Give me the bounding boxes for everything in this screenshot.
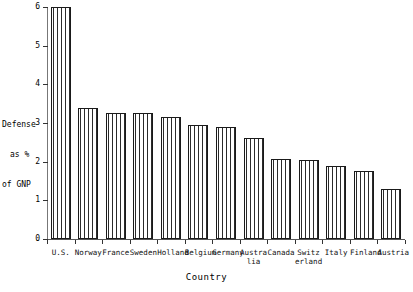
x-axis-label-line-1: Canada bbox=[267, 248, 295, 257]
y-axis-title-line-2: as % bbox=[2, 150, 48, 160]
x-axis-label-line-1: Sweden bbox=[130, 248, 158, 257]
y-tick: 2 bbox=[43, 162, 48, 163]
bar-chart: Defense as % of GNP 0123456 U.S.NorwayFr… bbox=[0, 0, 413, 292]
bar bbox=[381, 189, 401, 239]
x-axis-label: Australia bbox=[240, 248, 268, 266]
y-tick-label: 1 bbox=[35, 195, 40, 204]
y-tick: 4 bbox=[43, 84, 48, 85]
bar bbox=[133, 113, 153, 239]
x-axis-label: France bbox=[102, 248, 130, 257]
x-axis-label-line-1: Italy bbox=[322, 248, 350, 257]
x-axis-label-line-1: Finland bbox=[350, 248, 378, 257]
x-axis-label: Germany bbox=[212, 248, 240, 257]
bar bbox=[354, 171, 374, 239]
y-tick: 5 bbox=[43, 46, 48, 47]
y-tick-label: 0 bbox=[35, 234, 40, 243]
x-axis-label-line-1: Austria bbox=[377, 248, 405, 257]
x-axis-label-line-1: Switz bbox=[295, 248, 323, 257]
bar bbox=[216, 127, 236, 239]
x-axis-label: Holland bbox=[157, 248, 185, 257]
x-axis-label: Switzerland bbox=[295, 248, 323, 266]
bar bbox=[299, 160, 319, 239]
x-tick bbox=[102, 240, 103, 244]
x-axis-label-line-1: Austra bbox=[240, 248, 268, 257]
x-tick bbox=[240, 240, 241, 244]
x-tick bbox=[267, 240, 268, 244]
x-tick bbox=[130, 240, 131, 244]
x-tick bbox=[405, 240, 406, 244]
x-tick bbox=[295, 240, 296, 244]
y-tick: 1 bbox=[43, 200, 48, 201]
bar bbox=[106, 113, 126, 239]
x-tick bbox=[212, 240, 213, 244]
x-tick bbox=[47, 240, 48, 244]
x-tick bbox=[185, 240, 186, 244]
x-tick bbox=[322, 240, 323, 244]
x-axis-label: U.S. bbox=[47, 248, 75, 257]
bar bbox=[326, 166, 346, 239]
x-axis-label: Norway bbox=[75, 248, 103, 257]
x-axis-label-line-1: U.S. bbox=[47, 248, 75, 257]
y-tick-label: 6 bbox=[35, 2, 40, 11]
y-tick: 6 bbox=[43, 7, 48, 8]
x-axis-label: Sweden bbox=[130, 248, 158, 257]
x-tick bbox=[350, 240, 351, 244]
x-axis-label-line-2: erland bbox=[295, 257, 323, 266]
x-axis-label: Canada bbox=[267, 248, 295, 257]
bar bbox=[244, 138, 264, 239]
x-axis-label: Finland bbox=[350, 248, 378, 257]
x-tick bbox=[157, 240, 158, 244]
x-axis-label: Austria bbox=[377, 248, 405, 257]
y-tick-label: 5 bbox=[35, 41, 40, 50]
y-axis-title-line-1: Defense bbox=[2, 120, 48, 130]
x-axis-label: Belgium bbox=[185, 248, 213, 257]
x-axis-label-line-1: Norway bbox=[75, 248, 103, 257]
x-axis-label-line-1: Germany bbox=[212, 248, 240, 257]
x-axis-label-line-2: lia bbox=[240, 257, 268, 266]
bar bbox=[78, 108, 98, 239]
y-tick-label: 3 bbox=[35, 118, 40, 127]
bar bbox=[271, 159, 291, 239]
x-axis-label: Italy bbox=[322, 248, 350, 257]
x-axis-title: Country bbox=[0, 272, 413, 282]
x-axis-label-line-1: France bbox=[102, 248, 130, 257]
x-axis-line bbox=[47, 239, 405, 240]
x-axis-label-line-1: Holland bbox=[157, 248, 185, 257]
y-tick-label: 4 bbox=[35, 79, 40, 88]
bar bbox=[51, 7, 71, 239]
y-axis-title-line-3: of GNP bbox=[2, 180, 48, 190]
plot-area: 0123456 bbox=[47, 7, 405, 240]
y-tick-label: 2 bbox=[35, 157, 40, 166]
bar bbox=[188, 125, 208, 239]
x-axis-label-line-1: Belgium bbox=[185, 248, 213, 257]
x-tick bbox=[75, 240, 76, 244]
x-tick bbox=[377, 240, 378, 244]
y-axis-title: Defense as % of GNP bbox=[2, 100, 48, 210]
bar bbox=[161, 117, 181, 239]
y-tick: 3 bbox=[43, 123, 48, 124]
